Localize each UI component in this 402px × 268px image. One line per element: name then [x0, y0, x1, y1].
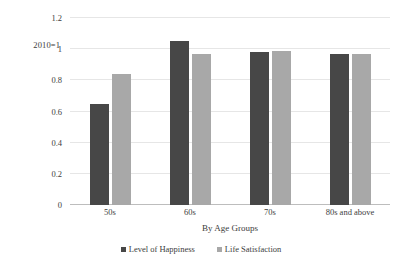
y-axis-tick-labels: 00.20.40.60.811.2 [0, 0, 66, 268]
y-axis-tick-label: 1 [58, 45, 62, 54]
legend-swatch-icon [217, 247, 222, 252]
legend-item-label: Life Satisfaction [225, 244, 281, 254]
gridline [70, 48, 390, 49]
x-axis-title: By Age Groups [70, 223, 390, 233]
y-axis-tick-label: 0.2 [51, 170, 62, 179]
chart-legend: Level of HappinessLife Satisfaction [0, 244, 402, 254]
plot-area [70, 18, 390, 205]
x-axis-tick-label: 80s and above [310, 208, 390, 217]
bar-chart: 2010=1 00.20.40.60.811.2 50s60s70s80s an… [0, 0, 402, 268]
y-axis-tick-label: 1.2 [51, 14, 62, 23]
bar [250, 52, 269, 205]
x-axis-tick-labels: 50s60s70s80s and above [70, 208, 390, 222]
y-axis-tick-label: 0.8 [51, 76, 62, 85]
legend-swatch-icon [121, 247, 126, 252]
legend-item[interactable]: Level of Happiness [121, 244, 195, 254]
bar [112, 74, 131, 205]
x-axis-tick-label: 50s [70, 208, 150, 217]
bar [192, 54, 211, 205]
x-axis-tick-label: 60s [150, 208, 230, 217]
y-axis-tick-label: 0 [58, 201, 62, 210]
y-axis-tick-label: 0.4 [51, 139, 62, 148]
bar [272, 51, 291, 205]
gridline [70, 17, 390, 18]
x-axis-tick-label: 70s [230, 208, 310, 217]
legend-item-label: Level of Happiness [129, 244, 195, 254]
bar [90, 104, 109, 205]
y-axis-tick-label: 0.6 [51, 108, 62, 117]
legend-item[interactable]: Life Satisfaction [217, 244, 281, 254]
bar [170, 41, 189, 205]
bar [352, 54, 371, 205]
bar [330, 54, 349, 205]
